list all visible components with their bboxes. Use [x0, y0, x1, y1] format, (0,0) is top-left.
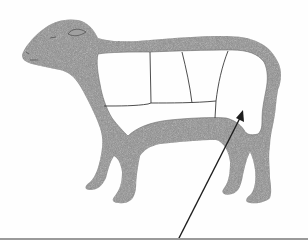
sheep-illustration [0, 0, 308, 240]
sheep-cut-diagram [0, 0, 308, 240]
